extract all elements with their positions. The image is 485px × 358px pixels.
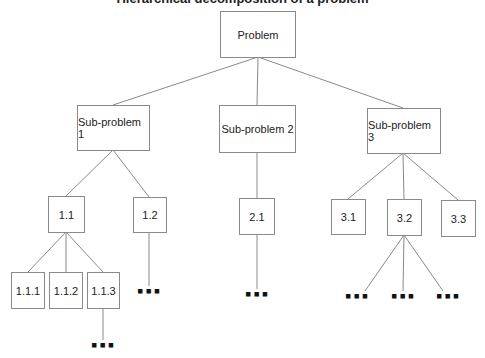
node-1-1-2: 1.1.2 bbox=[49, 272, 83, 309]
ellipsis-2-1: ▪▪▪ bbox=[245, 289, 270, 299]
ellipsis-3-2-c: ▪▪▪ bbox=[436, 291, 461, 301]
node-label: 3.1 bbox=[341, 211, 356, 223]
node-label: 1.1 bbox=[59, 209, 74, 221]
node-sub-problem-2: Sub-problem 2 bbox=[219, 105, 296, 153]
node-1-1-1: 1.1.1 bbox=[11, 272, 45, 309]
ellipsis-1-1-3: ▪▪▪ bbox=[91, 340, 116, 350]
node-1-2: 1.2 bbox=[133, 197, 167, 233]
node-2-1: 2.1 bbox=[239, 198, 275, 235]
node-problem: Problem bbox=[220, 11, 296, 58]
node-label: 3.3 bbox=[451, 213, 466, 225]
node-1-1-3: 1.1.3 bbox=[87, 272, 120, 309]
node-label: 1.1.1 bbox=[16, 285, 40, 297]
node-label: 1.2 bbox=[142, 209, 157, 221]
node-label: Problem bbox=[238, 29, 279, 41]
node-3-3: 3.3 bbox=[441, 200, 476, 237]
node-3-1: 3.1 bbox=[331, 199, 366, 235]
node-label: Sub-problem 3 bbox=[368, 119, 440, 143]
node-label: Sub-problem 2 bbox=[221, 123, 293, 135]
ellipsis-3-2-b: ▪▪▪ bbox=[391, 291, 416, 301]
ellipsis-3-2-a: ▪▪▪ bbox=[345, 291, 370, 301]
node-label: Sub-problem 1 bbox=[78, 116, 149, 140]
node-sub-problem-1: Sub-problem 1 bbox=[77, 105, 150, 151]
node-label: 3.2 bbox=[397, 212, 412, 224]
node-label: 1.1.3 bbox=[91, 285, 115, 297]
node-sub-problem-3: Sub-problem 3 bbox=[367, 108, 441, 154]
ellipsis-1-2: ▪▪▪ bbox=[137, 286, 162, 296]
node-1-1: 1.1 bbox=[48, 196, 85, 233]
node-label: 2.1 bbox=[249, 211, 264, 223]
node-3-2: 3.2 bbox=[387, 199, 422, 236]
node-label: 1.1.2 bbox=[54, 285, 78, 297]
